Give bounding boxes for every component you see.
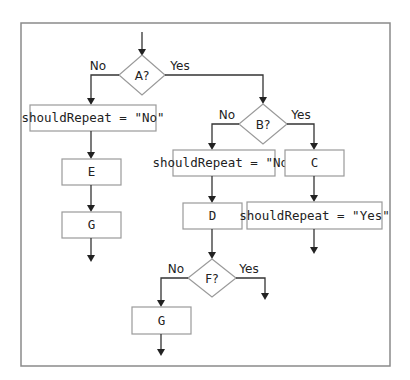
connector-a-yes [165, 75, 267, 104]
process-d: D [183, 203, 242, 229]
decision-b-no-label: No [219, 108, 235, 122]
process-a-no-assign: shouldRepeat = "No" [22, 105, 165, 131]
process-g-left-text: G [88, 217, 96, 232]
exit-arrow-bottom [157, 334, 165, 356]
process-e: E [62, 159, 121, 185]
connector-f-no [157, 278, 188, 307]
process-b-no-assign: shouldRepeat = "No" [153, 150, 296, 176]
connector-to-e [87, 131, 95, 159]
process-a-no-assign-text: shouldRepeat = "No" [22, 110, 165, 125]
process-g-bottom: G [132, 307, 191, 334]
connector-to-yes-assign [310, 176, 318, 202]
decision-f: F? [188, 259, 236, 297]
connector-f-yes [236, 278, 269, 300]
connector-to-d [208, 176, 216, 203]
connector-b-yes [287, 124, 318, 150]
process-c: C [285, 150, 344, 176]
process-c-text: C [311, 155, 319, 170]
process-c-yes-assign: shouldRepeat = "Yes" [239, 202, 390, 229]
decision-f-yes-label: Yes [238, 262, 258, 276]
decision-b-yes-label: Yes [290, 108, 310, 122]
process-d-text: D [209, 208, 217, 223]
process-g-bottom-text: G [158, 313, 166, 328]
process-b-no-assign-text: shouldRepeat = "No" [153, 155, 296, 170]
decision-b: B? [239, 104, 287, 144]
decision-f-no-label: No [168, 262, 184, 276]
entry-arrow [138, 32, 146, 56]
connector-to-f [208, 229, 216, 259]
connector-b-no [208, 124, 239, 150]
decision-b-label: B? [256, 118, 271, 132]
decision-a: A? [119, 55, 165, 95]
decision-f-label: F? [205, 272, 218, 286]
process-e-text: E [88, 164, 96, 179]
process-c-yes-assign-text: shouldRepeat = "Yes" [239, 208, 390, 223]
exit-arrow-left [87, 238, 95, 262]
connector-to-g-left [87, 185, 95, 212]
decision-a-no-label: No [90, 59, 106, 73]
flowchart: A? No Yes shouldRepeat = "No" E G B? [0, 0, 410, 380]
exit-arrow-right [310, 229, 318, 254]
decision-a-label: A? [135, 69, 150, 83]
connector-a-no [87, 75, 119, 105]
decision-a-yes-label: Yes [169, 59, 189, 73]
process-g-left: G [62, 212, 121, 238]
